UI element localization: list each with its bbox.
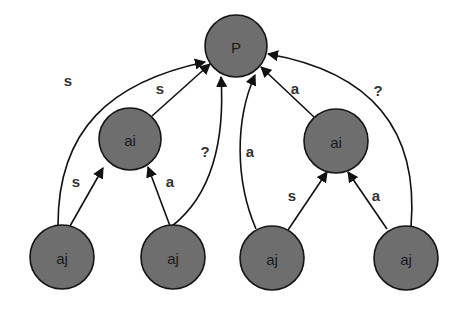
node-ai-left: ai bbox=[99, 108, 161, 170]
edge-ai2-to-p bbox=[261, 67, 314, 117]
edge-label-aj2-p: ? bbox=[200, 143, 209, 160]
node-aj-2: aj bbox=[141, 225, 205, 289]
node-aj-2-label: aj bbox=[167, 250, 179, 267]
edge-label-aj4-ai2: a bbox=[372, 187, 381, 204]
node-ai-right: ai bbox=[304, 109, 368, 173]
node-ai-right-label: ai bbox=[330, 134, 342, 151]
node-p-label: P bbox=[231, 39, 241, 56]
edge-label-aj2-ai1: a bbox=[166, 173, 175, 190]
delegation-graph: s s s a ? a a ? s a P ai ai aj aj bbox=[0, 0, 462, 311]
node-aj-4: aj bbox=[374, 226, 438, 290]
edge-label-aj1-ai1: s bbox=[72, 173, 80, 190]
node-aj-1-label: aj bbox=[56, 250, 68, 267]
edge-label-aj1-p: s bbox=[64, 72, 72, 89]
edge-label-ai2-p: a bbox=[291, 80, 300, 97]
nodes: P ai ai aj aj aj aj bbox=[30, 15, 438, 290]
edge-aj2-to-p bbox=[172, 77, 222, 226]
node-ai-left-label: ai bbox=[124, 132, 136, 149]
edge-aj4-to-ai2 bbox=[348, 172, 387, 229]
edge-label-aj4-p: ? bbox=[373, 82, 382, 99]
edge-label-ai1-p: s bbox=[156, 80, 164, 97]
node-aj-3-label: aj bbox=[266, 251, 278, 268]
node-p: P bbox=[205, 15, 267, 77]
edge-label-aj3-p: a bbox=[246, 143, 255, 160]
node-aj-3: aj bbox=[240, 226, 304, 290]
node-aj-4-label: aj bbox=[400, 251, 412, 268]
node-aj-1: aj bbox=[30, 225, 94, 289]
edge-label-aj3-ai2: s bbox=[288, 187, 296, 204]
